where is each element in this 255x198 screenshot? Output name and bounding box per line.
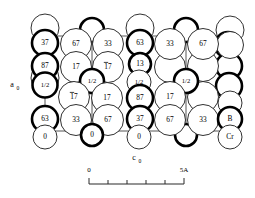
atom-circle (218, 125, 242, 149)
atom-a6: 67 (188, 29, 219, 60)
atom-f1: 0 (33, 125, 57, 149)
atom-circle (81, 124, 103, 146)
scale-label-end: 5A (180, 166, 189, 174)
atom-e5: 67 (155, 105, 186, 136)
atom-c1: 1/2 (33, 73, 58, 98)
atom-e6: 33 (188, 105, 219, 136)
axis-label-a: a (10, 80, 14, 89)
atom-circle (155, 105, 186, 136)
vertical-axis-label: a 0 (10, 80, 19, 91)
atom-circle (33, 125, 57, 149)
atom-circle (188, 29, 219, 60)
atom-circle (33, 73, 58, 98)
horizontal-axis-label: c 0 (132, 153, 141, 164)
atom-f3: 0 (127, 125, 151, 149)
atom-circle (188, 105, 219, 136)
atom-f4: Cr (218, 125, 242, 149)
atom-circle (127, 125, 151, 149)
axis-label-a-subscript: 0 (17, 85, 20, 91)
axis-label-c: c (132, 153, 136, 162)
axis-label-c-subscript: 0 (139, 158, 142, 164)
atom-f2: 0 (81, 124, 103, 146)
scale-bar: 0 5A (87, 166, 188, 184)
atom-circle (155, 29, 186, 60)
structure-diagram: 376733633367871717131/21/21/21/217178717… (0, 0, 255, 198)
atom-a5: 33 (155, 29, 186, 60)
atom-circle (217, 32, 244, 59)
scale-label-start: 0 (87, 166, 91, 174)
crystal-structure-figure: 376733633367871717131/21/21/21/217178717… (0, 0, 255, 198)
